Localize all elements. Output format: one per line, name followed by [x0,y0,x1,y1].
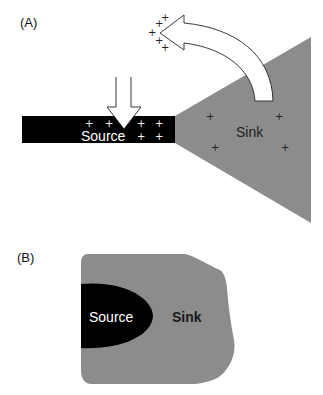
plus-icon: + [206,111,214,122]
plus-icon: + [155,131,163,142]
panel-b: (B) Source Sink [17,250,235,384]
sink-label: Sink [236,124,264,140]
plus-icon: + [161,42,169,53]
plus-icon: + [137,131,145,142]
plus-icon: + [275,111,283,122]
plus-icon: + [211,142,219,153]
source-sink-diagram: (A) + + + + + + Source + + + + Sink + [0,0,323,395]
source-label: Source [89,309,134,325]
outflow-arrow-icon [160,15,273,101]
panel-a-label: (A) [20,15,37,30]
plus-icon: + [137,118,145,129]
sink-label: Sink [172,309,202,325]
plus-icon: + [281,142,289,153]
source-label: Source [81,128,126,144]
panel-b-label: (B) [17,250,34,265]
plus-icon: + [155,118,163,129]
panel-a: (A) + + + + + + Source + + + + Sink + [20,12,311,223]
